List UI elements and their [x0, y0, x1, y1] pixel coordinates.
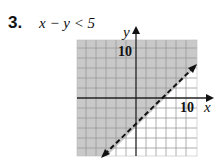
y-axis-label: y: [121, 24, 130, 40]
x-axis-label: x: [203, 99, 211, 115]
x-tick-label: 10: [180, 100, 194, 115]
y-tick-label: 10: [118, 44, 132, 59]
inequality-graph: 10 10 x y: [0, 0, 224, 164]
